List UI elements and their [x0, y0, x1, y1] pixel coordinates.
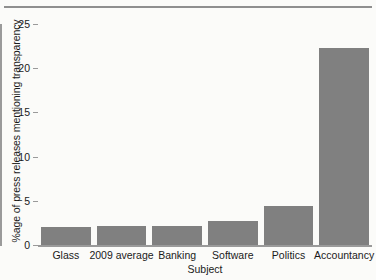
- y-axis-tick-label: 20: [18, 62, 30, 74]
- bar-glass: [41, 227, 91, 245]
- y-axis-tick-mark: [33, 157, 38, 158]
- x-axis-category-label: Accountancy: [314, 249, 374, 261]
- y-axis-tick-mark: [33, 68, 38, 69]
- top-divider-rule: [4, 6, 372, 8]
- x-axis-category-label: Glass: [52, 249, 79, 261]
- y-axis-tick-mark: [33, 201, 38, 202]
- x-axis-category-label: Politics: [272, 249, 305, 261]
- y-axis-tick-label: 25: [18, 18, 30, 30]
- bar-banking: [152, 226, 202, 245]
- x-axis-category-label: 2009 average: [89, 249, 153, 261]
- y-axis-tick-label: 0: [24, 239, 30, 251]
- x-axis-category-label: Banking: [158, 249, 196, 261]
- y-axis-tick-label: 5: [24, 195, 30, 207]
- y-axis-tick-label: 10: [18, 151, 30, 163]
- y-axis-tick-mark: [33, 245, 38, 246]
- bar-politics: [264, 206, 314, 245]
- y-axis-tick-label: 15: [18, 106, 30, 118]
- y-axis-tick-mark: [33, 112, 38, 113]
- x-axis-category-label: Software: [212, 249, 253, 261]
- y-axis-tick-mark: [33, 24, 38, 25]
- bar-chart-figure: %age of press releases mentioning transp…: [0, 0, 376, 280]
- bar-accountancy: [319, 48, 369, 245]
- y-axis-line: [0, 24, 2, 246]
- plot-area: 0510152025: [38, 24, 372, 245]
- x-axis-title: Subject: [38, 263, 372, 275]
- x-axis-line: [38, 245, 372, 247]
- bar-2009-average: [97, 226, 147, 245]
- bar-software: [208, 221, 258, 245]
- y-axis-title: %age of press releases mentioning transp…: [10, 11, 22, 251]
